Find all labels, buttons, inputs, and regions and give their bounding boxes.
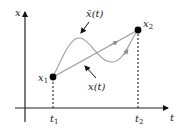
xbar-pointer-arrow: [81, 22, 89, 33]
xbar-t-label: x̄(t): [86, 8, 104, 19]
t2-label: t2: [135, 113, 144, 126]
x1-label: x1: [38, 72, 48, 85]
x2-label: x2: [143, 18, 153, 31]
x-t-label: x(t): [88, 81, 106, 92]
path-diagram: x t x1 x2 t1 t2 x̄(t) x(t): [0, 0, 179, 132]
y-axis-label: x: [15, 7, 21, 18]
t1-label: t1: [50, 113, 59, 126]
point-x1: [50, 74, 57, 81]
x-pointer-arrow: [85, 66, 96, 78]
x-axis-label: t: [170, 112, 175, 123]
point-x2: [135, 27, 142, 34]
straight-path-arrow: [110, 42, 116, 45]
